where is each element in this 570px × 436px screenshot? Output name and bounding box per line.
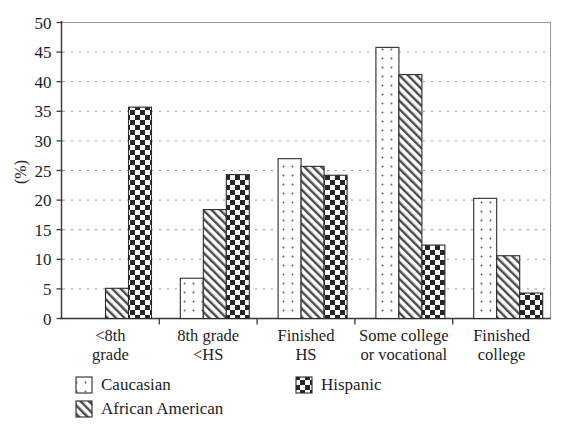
y-axis-tick-label: 45 [35, 43, 52, 62]
legend-item: Hispanic [296, 375, 382, 394]
bar [324, 175, 347, 318]
legend-label: African American [101, 399, 224, 418]
y-axis-tick-label: 0 [43, 310, 52, 329]
category-label: HS [295, 345, 316, 364]
category-label: Finished [278, 326, 336, 345]
bar [497, 256, 520, 319]
y-axis-tick-label: 15 [35, 221, 52, 240]
bar [301, 166, 324, 318]
y-axis-tick-label: 30 [35, 132, 52, 151]
y-axis-tick-label: 20 [35, 191, 52, 210]
bar [203, 210, 226, 319]
legend-swatch-checkerboard [296, 377, 312, 393]
y-axis-title: (%) [12, 160, 30, 184]
bar [399, 75, 422, 319]
y-axis-tick-label: 25 [35, 162, 52, 181]
category-label: 8th grade [177, 326, 239, 345]
bar [520, 293, 543, 318]
bar [106, 288, 129, 318]
y-axis-tick-label: 35 [35, 102, 52, 121]
legend-swatch-diagonal-hatch [76, 401, 92, 417]
bar [226, 175, 249, 319]
y-axis-tick-label: 50 [35, 14, 52, 33]
legend-item: Caucasian [76, 375, 171, 394]
bar [376, 47, 399, 318]
y-axis-tick-label: 5 [43, 280, 52, 299]
category-label: Some college [359, 326, 448, 345]
legend-label: Hispanic [321, 375, 382, 394]
category-label: <HS [193, 345, 223, 364]
category-label: college [478, 345, 526, 364]
bar [474, 198, 497, 318]
bar [278, 159, 301, 319]
category-label: Finished [473, 326, 531, 345]
legend-label: Caucasian [101, 375, 171, 394]
legend-swatch-dots [76, 377, 92, 393]
bar-chart-figure: 05101520253035404550 (%) <8thgrade8th gr… [0, 0, 570, 436]
chart-canvas: 05101520253035404550 (%) <8thgrade8th gr… [0, 0, 570, 436]
y-axis-tick-label: 10 [35, 250, 52, 269]
category-label: <8th [95, 326, 126, 345]
category-label: or vocational [361, 345, 448, 364]
bar [129, 107, 152, 318]
bar [180, 278, 203, 318]
bar [422, 245, 445, 318]
y-axis-tick-label: 40 [35, 73, 52, 92]
category-label: grade [92, 345, 129, 364]
